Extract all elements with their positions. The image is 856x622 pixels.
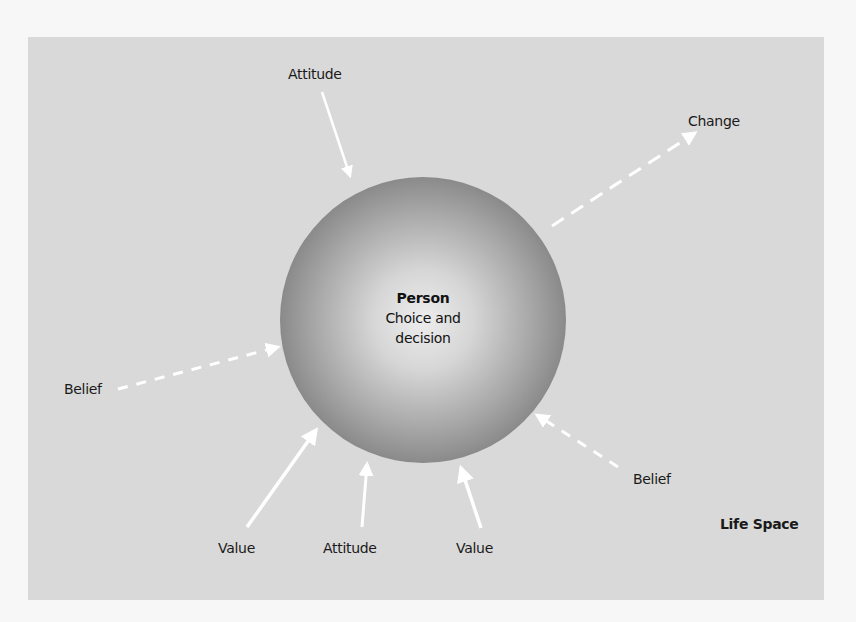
arrow-value-left <box>247 430 316 527</box>
person-line-1: Choice and <box>343 308 503 328</box>
person-title: Person <box>343 288 503 308</box>
arrow-belief-left <box>118 347 278 389</box>
label-value-right: Value <box>456 540 493 556</box>
person-label-group: Person Choice and decision <box>343 288 503 348</box>
label-change: Change <box>688 113 740 129</box>
diagram-title-life-space: Life Space <box>720 516 799 532</box>
arrow-change <box>552 133 695 226</box>
arrow-belief-right <box>537 415 618 467</box>
label-attitude-top: Attitude <box>288 66 342 82</box>
label-attitude-bottom: Attitude <box>323 540 377 556</box>
label-belief-left: Belief <box>64 381 102 397</box>
label-belief-right: Belief <box>633 471 671 487</box>
arrow-attitude-bottom <box>362 464 367 527</box>
person-line-2: decision <box>343 328 503 348</box>
arrow-value-right <box>461 468 481 528</box>
arrow-attitude-top <box>322 92 350 176</box>
label-value-left: Value <box>218 540 255 556</box>
